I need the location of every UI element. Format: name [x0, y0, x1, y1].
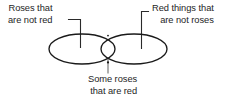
label-roses-not-red-line2: are not red — [8, 15, 52, 27]
intersection-node-top — [107, 35, 109, 37]
label-roses-not-red: Roses that are not red — [8, 3, 52, 26]
ellipse-roses — [49, 34, 115, 64]
label-some-roses-that-are-red-line2: that are red — [88, 86, 137, 98]
label-roses-not-red-line1: Roses that — [8, 3, 52, 15]
leader-line-right — [142, 12, 149, 49]
ellipse-red-things — [101, 34, 167, 64]
label-some-roses-that-are-red-line1: Some roses — [88, 74, 137, 86]
label-red-things-not-roses-line1: Red things that — [152, 3, 214, 15]
intersection-node-bottom — [107, 61, 109, 63]
label-some-roses-that-are-red: Some roses that are red — [88, 74, 137, 97]
label-red-things-not-roses-line2: are not roses — [152, 15, 214, 27]
label-red-things-not-roses: Red things that are not roses — [152, 3, 214, 26]
venn-diagram-figure: Roses that are not red Red things that a… — [0, 0, 236, 103]
